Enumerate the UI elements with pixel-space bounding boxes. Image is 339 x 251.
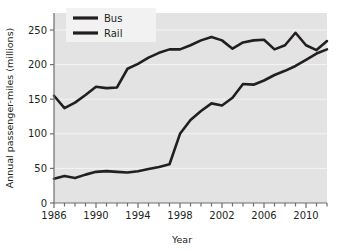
y-tick-label-200: 200 xyxy=(28,59,47,70)
chart-legend: Bus Rail xyxy=(66,8,156,42)
x-tick-label-2006: 2006 xyxy=(251,210,276,221)
line-chart: 050100150200250 198619901994199820022006… xyxy=(0,0,339,251)
y-tick-label-50: 50 xyxy=(34,163,47,174)
legend-label-rail: Rail xyxy=(104,28,122,39)
x-tick-label-1986: 1986 xyxy=(41,210,66,221)
x-tick-label-2002: 2002 xyxy=(209,210,234,221)
y-tick-label-250: 250 xyxy=(28,25,47,36)
x-tick-label-1998: 1998 xyxy=(167,210,192,221)
y-tick-label-0: 0 xyxy=(41,198,47,209)
x-tick-label-2010: 2010 xyxy=(293,210,318,221)
x-tick-label-1994: 1994 xyxy=(125,210,150,221)
y-tick-label-150: 150 xyxy=(28,94,47,105)
chart-figure: 050100150200250 198619901994199820022006… xyxy=(0,0,339,251)
y-tick-label-100: 100 xyxy=(28,128,47,139)
x-tick-label-1990: 1990 xyxy=(83,210,108,221)
x-axis-title: Year xyxy=(171,234,192,245)
y-axis-title: Annual passenger-miles (millions) xyxy=(4,28,15,189)
legend-label-bus: Bus xyxy=(104,13,122,24)
